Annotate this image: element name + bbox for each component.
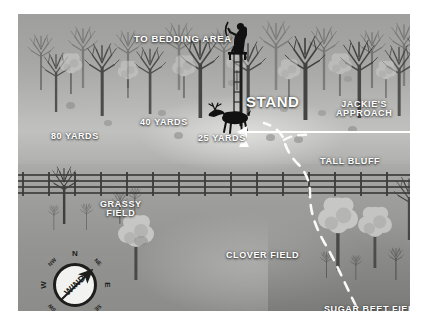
bare-tree-icon	[318, 250, 335, 278]
map-label-sugar_beet_field: SUGAR BEET FIELD	[324, 305, 410, 311]
fence-post	[178, 172, 180, 196]
compass-point-w: W	[39, 281, 48, 289]
map-label-clover_field: CLOVER FIELD	[226, 251, 299, 260]
fence-rail	[18, 192, 410, 194]
shrub-icon	[294, 136, 303, 143]
leafy-tree-icon	[114, 58, 142, 98]
map-label-jackies_approach: JACKIE'S APPROACH	[336, 100, 392, 119]
leafy-tree-icon	[324, 50, 356, 96]
compass-wind-label: WIND	[53, 263, 97, 307]
bare-tree-icon	[348, 254, 364, 280]
map-label-bedding: TO BEDDING AREA	[134, 34, 232, 44]
fence-post	[256, 172, 258, 196]
map-label-yards_40: 40 YARDS	[140, 118, 188, 127]
fence-rail	[18, 186, 410, 188]
fence-post	[126, 172, 128, 196]
shrub-icon	[134, 236, 148, 246]
fence-post	[230, 172, 232, 196]
bare-tree-icon	[46, 204, 62, 230]
bare-tree-icon	[78, 202, 95, 230]
shrub-icon	[104, 120, 112, 126]
fence-post	[152, 172, 154, 196]
fence-post	[386, 172, 388, 196]
shrub-icon	[318, 110, 326, 116]
map-label-yards_80: 80 YARDS	[51, 132, 99, 141]
shrub-icon	[66, 102, 75, 109]
fence-post	[100, 172, 102, 196]
map-label-stand: STAND	[246, 94, 300, 110]
bare-tree-icon	[386, 246, 406, 280]
shrub-icon	[174, 132, 183, 139]
screenshot-root: TO BEDDING AREASTANDJACKIE'S APPROACH80 …	[0, 0, 427, 336]
rail-fence	[18, 172, 410, 198]
wind-compass: WIND NNEESESSWWNW	[36, 246, 114, 311]
shrub-icon	[158, 110, 166, 116]
compass-point-n: N	[72, 249, 78, 258]
fence-post	[308, 172, 310, 196]
fence-rail	[18, 174, 410, 176]
fence-post	[48, 172, 50, 196]
map-label-tall_bluff: TALL BLUFF	[320, 157, 380, 166]
compass-point-e: E	[103, 282, 112, 287]
bare-tree-icon	[400, 30, 410, 102]
fence-post	[360, 172, 362, 196]
shrub-icon	[266, 134, 275, 141]
approach-arrow-line	[244, 131, 410, 133]
fence-post	[204, 172, 206, 196]
fence-post	[282, 172, 284, 196]
hunting-strategy-map: TO BEDDING AREASTANDJACKIE'S APPROACH80 …	[18, 14, 410, 311]
fence-rail	[18, 180, 410, 182]
map-label-grassy_field: GRASSY FIELD	[100, 200, 142, 219]
map-label-yards_25: 25 YARDS	[198, 134, 246, 143]
fence-post	[74, 172, 76, 196]
leafy-tree-icon	[372, 58, 400, 98]
fence-post	[334, 172, 336, 196]
leafy-tree-icon	[168, 52, 200, 98]
fence-post	[22, 172, 24, 196]
shrub-icon	[344, 76, 352, 82]
leafy-tree-icon	[56, 50, 86, 94]
